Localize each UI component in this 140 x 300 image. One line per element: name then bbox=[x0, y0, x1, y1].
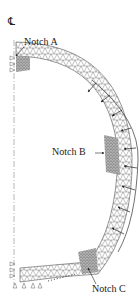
bottom-supports bbox=[13, 283, 42, 288]
notch-c-label: Notch C bbox=[92, 284, 126, 294]
notch-a-dense-mesh bbox=[16, 56, 30, 72]
centerline-symbol: ℄ bbox=[8, 16, 15, 27]
notch-b-dense-mesh bbox=[104, 135, 120, 175]
notch-b-label: Notch B bbox=[52, 147, 86, 157]
notch-a-label: Notch A bbox=[24, 37, 58, 47]
fe-mesh-diagram: ℄ Notch A Notch B Notch C bbox=[0, 0, 140, 300]
